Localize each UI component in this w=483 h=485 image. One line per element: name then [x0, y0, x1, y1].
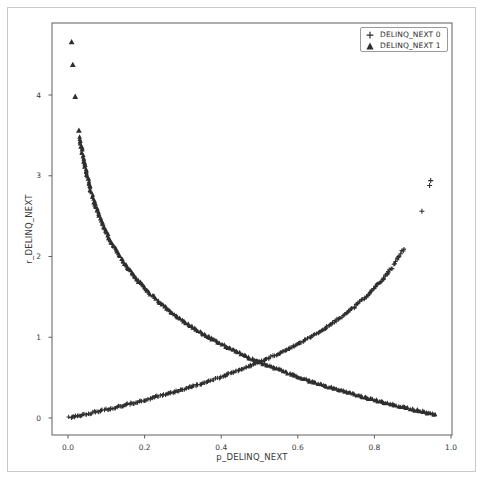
- plus-marker-icon: [365, 30, 375, 40]
- x-tick-label: 0.0: [62, 443, 74, 452]
- legend-entry-delinq-next-0: DELINQ_NEXT 0: [365, 29, 444, 40]
- y-tick-label: 1: [36, 333, 41, 342]
- figure: 0.00.20.40.60.81.001234 p_DELINQ_NEXT r_…: [0, 0, 483, 485]
- legend-label: DELINQ_NEXT 1: [380, 41, 441, 50]
- y-tick-label: 0: [36, 414, 41, 423]
- x-tick-label: 0.6: [292, 443, 304, 452]
- legend-label: DELINQ_NEXT 0: [380, 30, 441, 39]
- series-delinq-next-0-markers: [67, 178, 434, 420]
- scatter-plot: 0.00.20.40.60.81.001234: [0, 0, 483, 485]
- legend: DELINQ_NEXT 0 DELINQ_NEXT 1: [360, 27, 448, 52]
- x-tick-label: 1.0: [445, 443, 457, 452]
- triangle-marker-icon: [365, 41, 375, 51]
- y-tick-label: 3: [36, 171, 41, 180]
- y-tick-label: 4: [36, 91, 41, 100]
- x-tick-label: 0.4: [215, 443, 227, 452]
- axes-spines: [52, 23, 452, 435]
- series-delinq-next-1-markers: [69, 39, 438, 417]
- y-axis-label: r_DELINQ_NEXT: [24, 179, 34, 279]
- legend-entry-delinq-next-1: DELINQ_NEXT 1: [365, 40, 444, 51]
- x-tick-label: 0.8: [368, 443, 380, 452]
- x-axis-label: p_DELINQ_NEXT: [52, 452, 452, 462]
- y-tick-label: 2: [36, 252, 41, 261]
- x-tick-label: 0.2: [139, 443, 151, 452]
